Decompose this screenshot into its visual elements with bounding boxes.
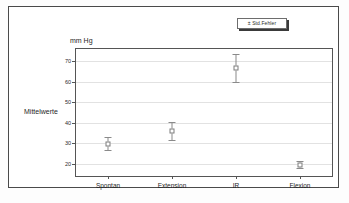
x-axis-tick: [236, 176, 237, 179]
y-axis-tick: [72, 82, 76, 83]
mean-marker: [170, 128, 175, 133]
y-axis-tick: [72, 102, 76, 103]
gridline: [76, 61, 332, 62]
document-frame: ± Std.Fehler mm Hg Mittelwerte 203040506…: [8, 6, 339, 188]
y-axis-tick: [72, 61, 76, 62]
mean-marker: [234, 65, 239, 70]
x-axis-label-ir: IR: [233, 182, 240, 189]
x-axis-label-extension: Extension: [158, 182, 187, 189]
x-axis-tick: [300, 176, 301, 179]
y-axis-title: Mittelwerte: [24, 108, 58, 115]
error-bar-cap-lower: [105, 150, 112, 151]
y-axis-tick-label: 60: [65, 79, 71, 85]
y-axis-tick-label: 30: [65, 140, 71, 146]
error-bar-cap-upper: [169, 122, 176, 123]
gridline: [76, 82, 332, 83]
plot-inner: [76, 49, 332, 176]
gridline: [76, 123, 332, 124]
y-axis-tick-label: 20: [65, 161, 71, 167]
y-axis-tick-label: 40: [65, 120, 71, 126]
gridline: [76, 164, 332, 165]
y-axis-tick: [72, 143, 76, 144]
error-bar-cap-lower: [233, 82, 240, 83]
unit-label: mm Hg: [70, 37, 93, 44]
y-axis-tick: [72, 164, 76, 165]
x-axis-tick: [108, 176, 109, 179]
chart-page: ± Std.Fehler mm Hg Mittelwerte 203040506…: [0, 0, 349, 203]
error-bar-cap-upper: [105, 137, 112, 138]
error-bar-cap-lower: [297, 168, 304, 169]
mean-marker: [106, 141, 111, 146]
gridline: [76, 143, 332, 144]
mean-marker: [298, 162, 303, 167]
y-axis-tick-label: 70: [65, 58, 71, 64]
error-bar-cap-lower: [169, 140, 176, 141]
error-bar-cap-upper: [233, 54, 240, 55]
y-axis-tick: [72, 123, 76, 124]
y-axis-tick-label: 50: [65, 99, 71, 105]
x-axis-label-flexion: Flexion: [290, 182, 311, 189]
x-axis-tick: [172, 176, 173, 179]
x-axis-label-spontan: Spontan: [96, 182, 120, 189]
legend-box: ± Std.Fehler: [237, 18, 287, 29]
plot-area: 203040506070SpontanExtensionIRFlexion: [75, 48, 333, 177]
legend-label: ± Std.Fehler: [248, 21, 276, 26]
gridline: [76, 102, 332, 103]
